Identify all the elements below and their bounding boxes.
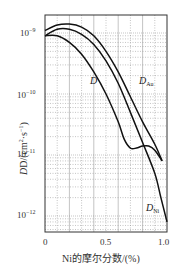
x-tick-0.5: 0.5 [100,237,112,247]
y-tick-1e-12: 10−12 [17,209,35,220]
diffusion-chart: 10−9 10−10 10−11 10−12 0 0.5 1.0 Ni的摩尔分数… [0,0,183,271]
y-tick-1e-10: 10−10 [17,89,35,100]
curve-D_Au [45,24,162,161]
curve-D [45,35,162,161]
curve-label-DAu: DAu [138,75,154,87]
curve-label-DNi: DNi [145,202,160,214]
x-tick-0: 0 [43,237,48,247]
y-tick-1e-9: 10−9 [20,27,35,38]
curve-label-D: D [89,75,98,86]
x-tick-1.0: 1.0 [158,237,170,247]
grid [45,15,167,232]
y-axis-label: DD/(cm2·s−1) [18,122,30,176]
x-axis-label: Ni的摩尔分数/(%) [62,252,140,265]
